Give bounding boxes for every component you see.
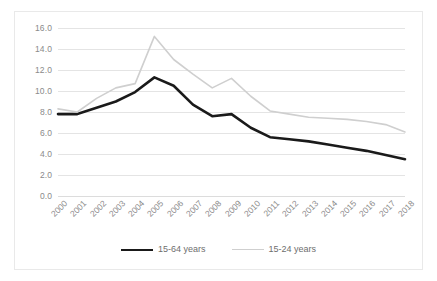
y-tick-label: 2.0 xyxy=(12,171,52,180)
gridline xyxy=(58,196,405,197)
legend-item[interactable]: 15-24 years xyxy=(232,245,317,254)
legend-swatch-icon xyxy=(121,249,153,251)
legend-label: 15-64 years xyxy=(158,245,206,254)
y-tick-label: 8.0 xyxy=(12,108,52,117)
y-tick-label: 12.0 xyxy=(12,66,52,75)
series-line xyxy=(58,77,405,159)
legend-label: 15-24 years xyxy=(269,245,317,254)
series-layer xyxy=(58,28,405,196)
legend-item[interactable]: 15-64 years xyxy=(121,245,206,254)
series-line xyxy=(58,36,405,132)
y-tick-label: 16.0 xyxy=(12,24,52,33)
y-tick-label: 0.0 xyxy=(12,192,52,201)
y-tick-label: 4.0 xyxy=(12,150,52,159)
plot-area xyxy=(58,28,405,196)
y-tick-label: 6.0 xyxy=(12,129,52,138)
y-axis: 16.014.012.010.08.06.04.02.00.0 xyxy=(12,28,52,196)
y-tick-label: 14.0 xyxy=(12,45,52,54)
x-axis: 2000200120022003200420052006200720082009… xyxy=(58,199,405,241)
y-tick-label: 10.0 xyxy=(12,87,52,96)
chart-legend: 15-64 years15-24 years xyxy=(0,245,437,254)
line-chart: 16.014.012.010.08.06.04.02.00.0 20002001… xyxy=(0,0,437,281)
legend-swatch-icon xyxy=(232,249,264,250)
